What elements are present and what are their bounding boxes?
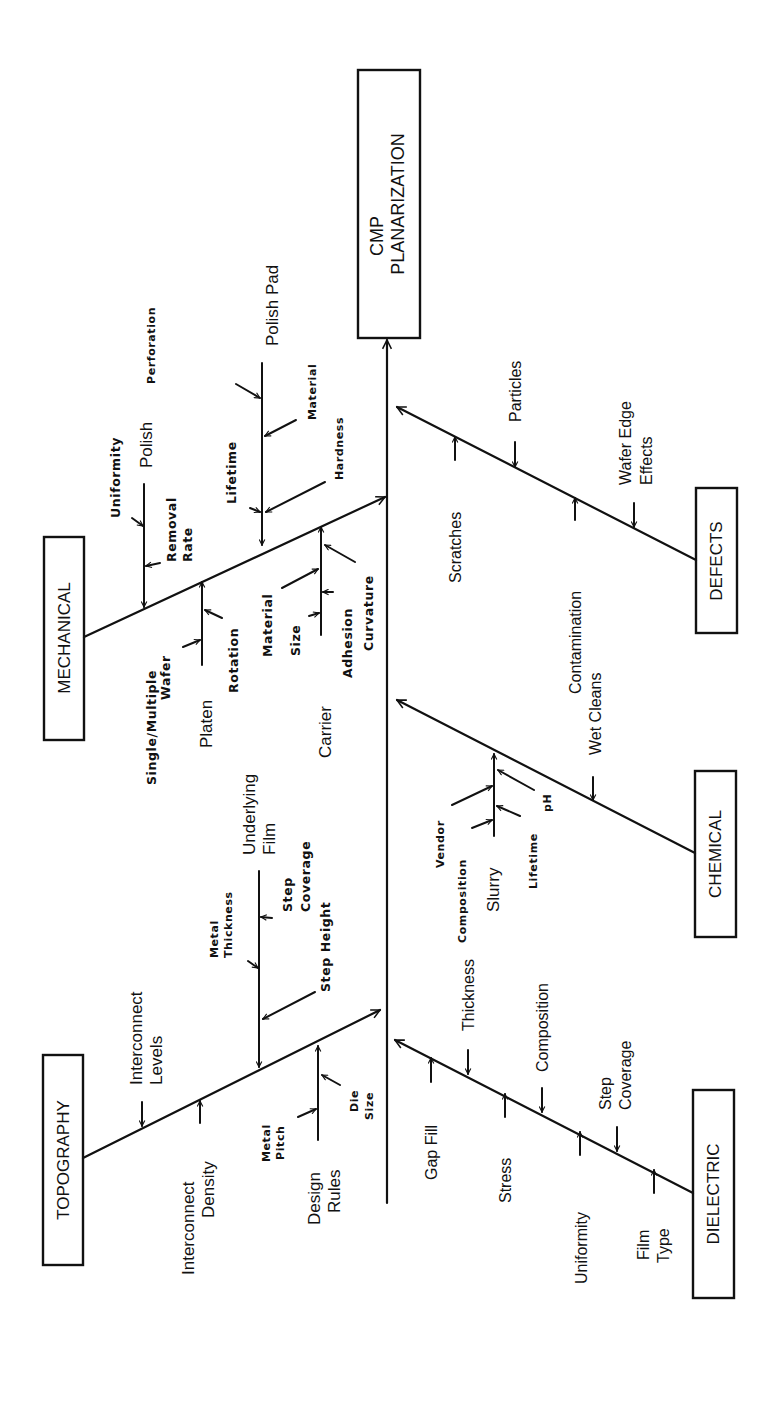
rate-label: Rate xyxy=(180,527,195,562)
rotation-arrow xyxy=(205,610,222,618)
material-carrier-label: Material xyxy=(260,594,275,657)
chemical-label: CHEMICAL xyxy=(706,810,725,898)
metal-pitch-line1: Metal xyxy=(260,1124,273,1162)
curvature-arrow xyxy=(325,545,355,562)
dielectric-label: DIELECTRIC xyxy=(704,1143,723,1244)
wafer-edge-line2: Effects xyxy=(638,436,655,485)
metal-thickness-line1: Metal xyxy=(208,920,221,958)
vendor-arrow xyxy=(452,786,492,805)
uniformity-label: Uniformity xyxy=(108,437,123,518)
curvature-label: Curvature xyxy=(361,575,376,651)
lifetime-slurry-arrow xyxy=(497,806,520,816)
size-carrier-arrow xyxy=(309,613,319,616)
polish-label: Polish xyxy=(137,422,156,468)
effect-label-line1: CMP xyxy=(367,216,387,256)
ph-arrow xyxy=(498,770,534,790)
polish-pad-label: Polish Pad xyxy=(263,265,282,346)
vendor-label: Vendor xyxy=(434,820,447,868)
step-coverage-uf-line2: Coverage xyxy=(298,841,313,912)
composition-dielectric-label: Composition xyxy=(534,983,551,1072)
material-carrier-arrow xyxy=(282,569,318,588)
removal-label: Removal xyxy=(164,497,179,562)
contamination-label: Contamination xyxy=(567,591,584,694)
material-pad-arrow xyxy=(265,420,296,436)
step-coverage-uf-line1: Step xyxy=(280,877,295,912)
stress-label: Stress xyxy=(497,1158,514,1203)
ph-label: pH xyxy=(541,794,554,812)
interconnect-levels-line1: Interconnect xyxy=(127,991,146,1085)
scratches-label: Scratches xyxy=(447,512,464,583)
defects-label: DEFECTS xyxy=(707,521,726,600)
die-size-line1: Die xyxy=(348,1090,361,1112)
perforation-arrow xyxy=(236,384,260,398)
film-type-line2: Type xyxy=(655,1228,672,1263)
design-rules-line1: Design xyxy=(305,1172,324,1225)
diagram-canvas: CMP PLANARIZATION MECHANICAL Polish Unif… xyxy=(0,0,783,1413)
step-height-arrow xyxy=(263,992,315,1019)
category-chemical: CHEMICAL Wet Cleans Slurry Vendor Compos… xyxy=(397,673,736,943)
adhesion-label: Adhesion xyxy=(340,608,355,678)
metal-thickness-arrow xyxy=(248,961,258,968)
size-carrier-label: Size xyxy=(288,625,303,656)
uniformity-dielectric-label: Uniformity xyxy=(573,1212,590,1284)
film-type-line1: Film xyxy=(635,1230,652,1260)
interconnect-levels-line2: Levels xyxy=(147,1036,166,1085)
carrier-label: Carrier xyxy=(316,706,335,758)
uniformity-arrow xyxy=(132,518,143,526)
effect-label-line2: PLANARIZATION xyxy=(388,133,408,275)
step-coverage-uf-arrow xyxy=(261,917,272,918)
step-coverage-dielectric-line1: Step xyxy=(597,1077,614,1110)
metal-pitch-line2: Pitch xyxy=(274,1126,287,1160)
step-height-label: Step Height xyxy=(318,902,333,992)
wafer-label: Wafer xyxy=(158,655,173,700)
slurry-label: Slurry xyxy=(484,867,503,912)
removal-rate-arrow xyxy=(146,563,160,566)
effect-head: CMP PLANARIZATION xyxy=(358,70,420,338)
category-mechanical: MECHANICAL Polish Uniformity Removal Rat… xyxy=(44,265,385,785)
composition-slurry-label: Composition xyxy=(456,859,469,943)
metal-pitch-arrow xyxy=(298,1109,316,1117)
perforation-label: Perforation xyxy=(145,307,158,384)
thickness-label: Thickness xyxy=(460,959,477,1031)
step-coverage-dielectric-line2: Coverage xyxy=(617,1041,634,1110)
lifetime-pad-arrow xyxy=(250,508,260,512)
underlying-film-line2: Film xyxy=(260,823,279,855)
single-multiple-arrow xyxy=(183,640,200,647)
hardness-label: Hardness xyxy=(333,417,346,480)
metal-thickness-line2: Thickness xyxy=(222,891,235,958)
fishbone-diagram: CMP PLANARIZATION MECHANICAL Polish Unif… xyxy=(0,0,783,1413)
hardness-arrow xyxy=(266,482,325,512)
rotation-label: Rotation xyxy=(226,628,241,693)
design-rules-line2: Rules xyxy=(325,1170,344,1213)
topography-label: TOPOGRAPHY xyxy=(54,1100,73,1220)
mechanical-label: MECHANICAL xyxy=(55,582,74,693)
wet-cleans-label: Wet Cleans xyxy=(587,673,604,755)
lifetime-pad-label: Lifetime xyxy=(224,441,239,504)
wafer-edge-line1: Wafer Edge xyxy=(617,401,634,485)
platen-label: Platen xyxy=(197,700,216,748)
particles-label: Particles xyxy=(507,361,524,422)
lifetime-slurry-label: Lifetime xyxy=(527,833,540,889)
interconnect-density-line2: Density xyxy=(199,1161,218,1218)
category-dielectric: DIELECTRIC Gap Fill Thickness Stress Com… xyxy=(395,959,734,1298)
composition-slurry-arrow xyxy=(472,820,492,828)
category-defects: DEFECTS Scratches Particles Contaminatio… xyxy=(397,361,737,694)
underlying-film-line1: Underlying xyxy=(240,774,259,855)
die-size-arrow xyxy=(322,1075,340,1085)
single-multiple-label: Single/Multiple xyxy=(144,670,159,785)
interconnect-density-line1: Interconnect xyxy=(179,1181,198,1275)
category-topography: TOPOGRAPHY Interconnect Levels Interconn… xyxy=(43,774,380,1275)
die-size-line2: Size xyxy=(363,1092,376,1120)
material-pad-label: Material xyxy=(306,364,319,420)
gap-fill-label: Gap Fill xyxy=(423,1125,440,1180)
